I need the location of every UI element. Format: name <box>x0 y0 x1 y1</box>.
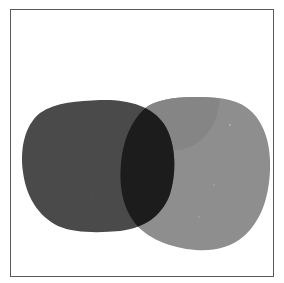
blob-artwork <box>0 0 284 283</box>
artwork-canvas: Two overlapping rounded blob shapes in g… <box>0 0 284 283</box>
speck <box>91 195 92 196</box>
speck <box>229 124 231 126</box>
speck <box>198 216 200 218</box>
speck <box>213 184 215 186</box>
